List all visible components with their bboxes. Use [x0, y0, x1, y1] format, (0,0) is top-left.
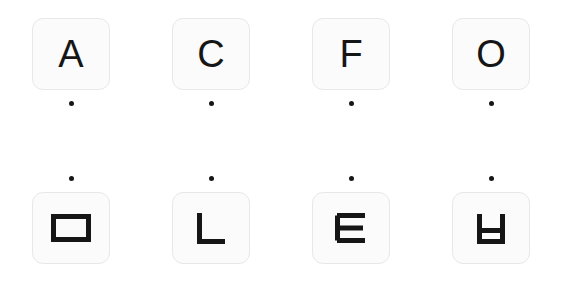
tile-cell — [281, 176, 421, 276]
e-bars-glyph — [329, 208, 373, 248]
glyph-tile-rotated-h[interactable] — [452, 192, 530, 264]
marker-dot-below-o — [489, 101, 494, 106]
corner-l-glyph — [189, 208, 233, 248]
marker-dot-below-a — [69, 101, 74, 106]
marker-dot-above-e-bars — [349, 176, 354, 181]
marker-dot-above-corner-l — [209, 176, 214, 181]
glyph-tile-grid: A C F O — [0, 0, 563, 291]
glyph-tile-f[interactable]: F — [312, 18, 390, 90]
tile-cell: F — [281, 18, 421, 110]
marker-dot-below-c — [209, 101, 214, 106]
letter-f-glyph: F — [339, 35, 362, 73]
tile-cell — [1, 176, 141, 276]
letter-c-glyph: C — [197, 35, 224, 73]
glyph-tile-e-bars[interactable] — [312, 192, 390, 264]
tile-row-top: A C F O — [0, 18, 563, 110]
tile-cell — [421, 176, 561, 276]
tile-cell — [141, 176, 281, 276]
tile-cell: O — [421, 18, 561, 110]
letter-o-glyph: O — [476, 35, 506, 73]
rectangle-outline-glyph — [49, 208, 93, 248]
glyph-tile-corner-l[interactable] — [172, 192, 250, 264]
marker-dot-below-f — [349, 101, 354, 106]
tile-cell: A — [1, 18, 141, 110]
glyph-tile-rectangle[interactable] — [32, 192, 110, 264]
marker-dot-above-rectangle — [69, 176, 74, 181]
tile-row-bottom — [0, 176, 563, 276]
tile-cell: C — [141, 18, 281, 110]
glyph-tile-a[interactable]: A — [32, 18, 110, 90]
rotated-h-glyph — [469, 208, 513, 248]
glyph-tile-c[interactable]: C — [172, 18, 250, 90]
glyph-tile-o[interactable]: O — [452, 18, 530, 90]
letter-a-glyph: A — [58, 35, 83, 73]
marker-dot-above-rotated-h — [489, 176, 494, 181]
